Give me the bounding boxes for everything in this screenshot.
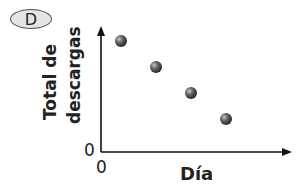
x-axis-label: Día [180,163,213,184]
data-point [185,87,197,99]
svg-text:Total de: Total de [40,44,60,120]
scatter-chart: Total de descargas 0 0 Día [0,0,304,196]
y-origin-label: 0 [84,140,95,160]
data-point [220,113,232,125]
svg-text:descargas: descargas [64,26,84,124]
data-point [150,61,162,73]
y-axis-label: Total de descargas [40,26,84,124]
data-points [115,35,232,125]
data-point [115,35,127,47]
x-origin-label: 0 [96,157,107,177]
